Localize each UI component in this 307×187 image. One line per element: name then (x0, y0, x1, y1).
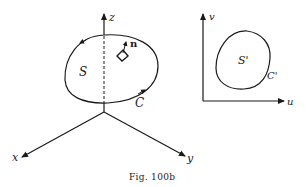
normal-label-n: n (130, 38, 138, 49)
u-axis-label: u (287, 96, 293, 107)
surface-label-s: S (79, 65, 87, 79)
curve-label-c-prime: C' (267, 70, 277, 81)
curve-label-c: C (135, 96, 144, 110)
right-2d-diagram: v u S' C' (203, 11, 293, 107)
surface-element-icon (117, 50, 128, 61)
curve-direction-arrow-top (80, 40, 86, 43)
figure-caption: Fig. 100b (129, 172, 175, 182)
z-axis-label: z (108, 11, 115, 24)
v-axis-label: v (209, 11, 215, 22)
figure-canvas: z x y S C n v u S' C' Fig. 100b (0, 0, 307, 187)
left-3d-diagram: z x y S C n (12, 11, 194, 165)
y-axis-label: y (186, 152, 194, 165)
x-axis (22, 112, 104, 157)
surface-label-s-prime: S' (238, 54, 249, 67)
x-axis-label: x (12, 151, 19, 164)
y-axis (104, 112, 185, 156)
